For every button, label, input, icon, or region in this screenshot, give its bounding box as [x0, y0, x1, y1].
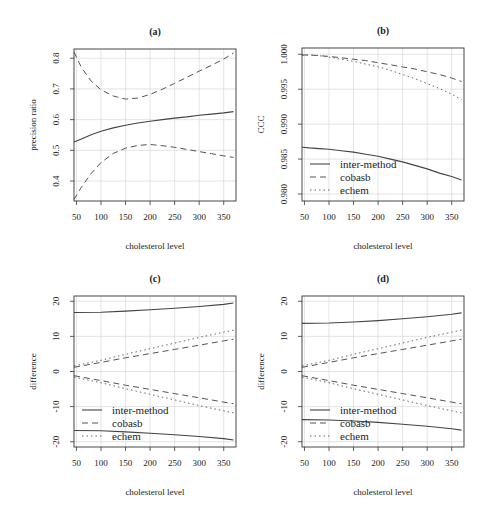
x-tick-label: 50 — [72, 458, 82, 468]
x-tick-label: 50 — [300, 458, 310, 468]
x-tick-label: 350 — [217, 458, 231, 468]
series-echem-upper — [74, 330, 234, 366]
x-axis-label: cholesterol level — [353, 487, 413, 497]
x-tick-label: 250 — [396, 458, 410, 468]
panel-b: 50100150200250300350cholesterol level0.9… — [256, 25, 464, 251]
series-estimate — [74, 112, 234, 142]
figure: 50100150200250300350cholesterol level0.4… — [0, 0, 490, 525]
x-tick-label: 300 — [420, 212, 434, 222]
legend-label: inter-method — [112, 404, 169, 416]
x-tick-label: 300 — [420, 458, 434, 468]
y-axis-label: difference — [28, 353, 38, 389]
y-tick-label: 0.6 — [51, 114, 61, 126]
x-tick-label: 200 — [143, 458, 157, 468]
series-inter-method-upper — [74, 303, 234, 313]
series-inter-method-lower — [302, 420, 462, 431]
x-tick-label: 200 — [143, 212, 157, 222]
series-cobasb-lower — [302, 376, 462, 404]
series-upper-bound — [74, 52, 234, 99]
x-tick-label: 100 — [322, 212, 336, 222]
series-inter-method-lower — [74, 431, 234, 441]
x-tick-label: 50 — [72, 212, 82, 222]
gridlines — [302, 296, 464, 447]
y-axis: 0.9800.9850.9900.9951.000CCC — [256, 44, 302, 204]
y-tick-label: -20 — [51, 435, 61, 447]
x-tick-label: 100 — [94, 212, 108, 222]
x-axis: 50100150200250300350cholesterol level — [300, 201, 459, 251]
panel-title: (d) — [377, 273, 389, 285]
x-tick-label: 350 — [445, 212, 459, 222]
gridlines — [302, 48, 464, 201]
y-tick-label: 20 — [279, 296, 289, 306]
y-axis-label: difference — [256, 353, 266, 389]
y-axis-label: precision ratio — [28, 99, 38, 151]
y-axis: 0.40.50.60.70.8precision ratio — [28, 52, 74, 187]
x-tick-label: 200 — [371, 458, 385, 468]
y-tick-label: 0.985 — [279, 148, 289, 169]
y-tick-label: 1.000 — [279, 44, 289, 65]
series-lower-bound — [74, 145, 234, 200]
legend-label: echem — [340, 430, 369, 442]
x-tick-label: 100 — [94, 458, 108, 468]
y-tick-label: 0.980 — [279, 183, 289, 204]
series-cobasb-upper — [302, 339, 462, 367]
x-axis-label: cholesterol level — [353, 241, 413, 251]
legend-label: echem — [340, 184, 369, 196]
panel-title: (a) — [149, 26, 161, 38]
legend-label: cobasb — [340, 417, 371, 429]
y-tick-label: 0 — [51, 369, 61, 374]
x-axis: 50100150200250300350cholesterol level — [72, 201, 231, 251]
y-tick-label: 10 — [279, 331, 289, 341]
plot-frame — [74, 49, 236, 201]
legend: inter-methodcobasbechem — [82, 404, 169, 442]
legend-label: cobasb — [112, 417, 143, 429]
legend: inter-methodcobasbechem — [310, 158, 397, 196]
y-tick-label: 0.8 — [51, 52, 61, 64]
x-tick-label: 250 — [168, 212, 182, 222]
series-inter-method-upper — [302, 313, 462, 324]
x-axis: 50100150200250300350cholesterol level — [300, 447, 459, 497]
panel-title: (b) — [377, 25, 389, 37]
y-axis-label: CCC — [256, 115, 266, 133]
panel-a: 50100150200250300350cholesterol level0.4… — [28, 26, 236, 251]
y-tick-label: 0.7 — [51, 83, 61, 95]
legend-label: cobasb — [340, 171, 371, 183]
y-axis: -20-1001020difference — [28, 296, 74, 447]
x-tick-label: 300 — [192, 212, 206, 222]
x-tick-label: 350 — [445, 458, 459, 468]
x-tick-label: 200 — [371, 212, 385, 222]
y-tick-label: 0.990 — [279, 114, 289, 135]
legend-label: inter-method — [340, 404, 397, 416]
gridlines — [74, 296, 236, 447]
x-tick-label: 250 — [168, 458, 182, 468]
y-tick-label: -10 — [51, 400, 61, 412]
y-tick-label: -20 — [279, 435, 289, 447]
gridlines — [74, 49, 236, 201]
x-tick-label: 150 — [347, 212, 361, 222]
x-axis-label: cholesterol level — [125, 487, 185, 497]
y-tick-label: -10 — [279, 400, 289, 412]
legend-label: inter-method — [340, 158, 397, 170]
series-cobasb-lower — [74, 376, 234, 404]
series-echem — [302, 55, 462, 100]
y-tick-label: 20 — [51, 296, 61, 306]
series-echem-upper — [302, 330, 462, 366]
x-tick-label: 100 — [322, 458, 336, 468]
panel-c: 50100150200250300350cholesterol level-20… — [28, 273, 236, 497]
y-tick-label: 0.5 — [51, 144, 61, 156]
x-axis-label: cholesterol level — [125, 241, 185, 251]
x-axis: 50100150200250300350cholesterol level — [72, 447, 231, 497]
series-cobasb-upper — [74, 339, 234, 367]
x-tick-label: 150 — [347, 458, 361, 468]
x-tick-label: 150 — [119, 212, 133, 222]
panel-d: 50100150200250300350cholesterol level-20… — [256, 273, 464, 497]
x-tick-label: 250 — [396, 212, 410, 222]
x-tick-label: 150 — [119, 458, 133, 468]
y-tick-label: 0 — [279, 369, 289, 374]
y-tick-label: 0.4 — [51, 175, 61, 187]
y-axis: -20-1001020difference — [256, 296, 302, 447]
y-tick-label: 0.995 — [279, 79, 289, 100]
x-tick-label: 350 — [217, 212, 231, 222]
legend-label: echem — [112, 430, 141, 442]
panel-title: (c) — [149, 273, 160, 285]
